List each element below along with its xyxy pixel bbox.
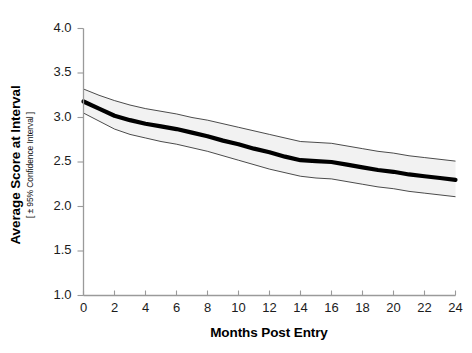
confidence-band [84, 89, 456, 197]
x-axis-ticks [84, 291, 456, 296]
y-tick-label: 3.5 [38, 64, 72, 79]
x-tick-label: 22 [412, 300, 438, 315]
x-tick-label: 0 [71, 300, 97, 315]
y-tick-label: 2.5 [38, 153, 72, 168]
x-tick-label: 10 [226, 300, 252, 315]
x-tick-label: 8 [195, 300, 221, 315]
y-axis-label: Average Score at Interval [9, 85, 24, 244]
y-axis-ticks [78, 29, 84, 296]
x-tick-label: 20 [381, 300, 407, 315]
x-tick-label: 2 [102, 300, 128, 315]
x-tick-label: 12 [257, 300, 283, 315]
y-tick-label: 4.0 [38, 20, 72, 35]
y-tick-label: 1.0 [38, 287, 72, 302]
x-tick-label: 16 [319, 300, 345, 315]
y-tick-label: 1.5 [38, 242, 72, 257]
y-axis-title-group: Average Score at Interval [ ± 95% Confid… [2, 40, 42, 290]
x-axis-label: Months Post Entry [83, 325, 455, 340]
y-axis-sublabel: [ ± 95% Confidence Interval ] [25, 112, 35, 218]
y-tick-label: 3.0 [38, 109, 72, 124]
chart-title [0, 0, 472, 2]
x-tick-label: 6 [164, 300, 190, 315]
chart-figure: Average Score at Interval [ ± 95% Confid… [0, 0, 472, 353]
x-tick-label: 4 [133, 300, 159, 315]
x-tick-label: 24 [443, 300, 469, 315]
x-tick-label: 18 [350, 300, 376, 315]
x-tick-label: 14 [288, 300, 314, 315]
y-tick-label: 2.0 [38, 198, 72, 213]
